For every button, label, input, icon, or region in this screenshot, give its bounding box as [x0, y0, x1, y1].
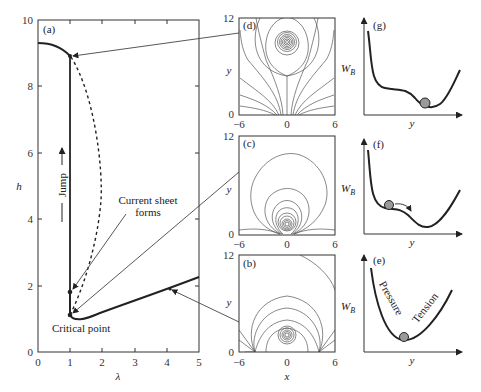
energy-curve — [368, 150, 460, 227]
x-tick-label: 4 — [164, 356, 170, 368]
panel-e: (e) WB y Pressure Tension — [341, 254, 462, 366]
panel-tag: (f) — [373, 138, 384, 151]
x-tick-label: 5 — [196, 356, 202, 368]
y-tick-label: 12 — [223, 249, 234, 261]
x-tick-label: −6 — [233, 118, 245, 130]
panel-tag: (c) — [243, 137, 256, 150]
lower-branch — [70, 277, 199, 319]
x-axis-label: x — [284, 370, 290, 382]
y-axis-label: h — [16, 180, 22, 192]
y-tick-label: 4 — [28, 213, 34, 225]
panel-tag: (d) — [243, 19, 256, 32]
current-sheet-arrow — [73, 214, 126, 289]
x-tick-label: 0 — [284, 238, 290, 250]
ball-icon — [385, 201, 394, 210]
panel-f: (f) WB y — [341, 138, 462, 248]
x-tick-label: 3 — [132, 356, 138, 368]
y-axis-label: WB — [341, 182, 355, 197]
x-tick-label: 0 — [35, 356, 41, 368]
current-sheet-label: Current sheet — [119, 194, 178, 206]
x-tick-label: 0 — [284, 118, 290, 130]
critical-point-marker — [68, 313, 73, 318]
ball-icon — [420, 98, 430, 108]
panel-tag: (a) — [43, 23, 56, 36]
y-tick-label: 2 — [28, 280, 34, 292]
y-axis-label: y — [226, 296, 232, 308]
y-tick-label: 12 — [223, 12, 234, 24]
tension-label: Tension — [409, 290, 440, 325]
panel-a: 0 1 2 3 4 5 0 2 4 6 8 10 λ h (a) Jump Cu… — [16, 14, 202, 382]
jump-label: Jump — [56, 173, 68, 197]
unstable-branch — [70, 57, 101, 315]
arrow-d-to-a — [73, 33, 239, 56]
panel-tag: (b) — [243, 257, 256, 270]
energy-curve — [371, 268, 452, 340]
y-tick-label: 6 — [28, 147, 34, 159]
x-tick-label: 2 — [99, 356, 105, 368]
panel-d: (d) 12 0 y −6 0 6 — [223, 10, 338, 130]
panel-b-frame — [239, 255, 335, 352]
x-axis-label: y — [409, 354, 415, 366]
current-sheet-label-2: forms — [135, 206, 161, 218]
y-tick-label: 10 — [22, 14, 34, 26]
x-axis-label: y — [409, 236, 415, 248]
current-sheet-point — [68, 290, 73, 295]
x-tick-label: 1 — [67, 356, 73, 368]
y-tick-label: 0 — [28, 346, 34, 358]
y-tick-label: 12 — [223, 130, 234, 142]
panel-b: (b) 12 0 y −6 0 6 x — [223, 249, 338, 382]
lower-point — [168, 287, 171, 290]
upper-point — [68, 54, 72, 58]
y-axis-label: y — [226, 64, 232, 76]
panel-c-frame — [239, 136, 335, 235]
ball-icon — [400, 333, 409, 342]
panel-g: (g) WB y — [341, 18, 462, 129]
contours-b — [239, 255, 335, 352]
x-axis-label: λ — [115, 370, 121, 382]
y-tick-label: 8 — [28, 80, 34, 92]
x-tick-label: 0 — [284, 356, 290, 368]
panel-c: (c) 12 0 y −6 0 6 — [223, 130, 338, 250]
x-tick-label: −6 — [233, 356, 245, 368]
critical-point-label: Critical point — [52, 322, 110, 334]
x-tick-label: 6 — [332, 118, 338, 130]
upper-branch — [38, 43, 70, 56]
panel-tag: (e) — [373, 254, 386, 267]
x-tick-label: 6 — [332, 356, 338, 368]
figure: 0 1 2 3 4 5 0 2 4 6 8 10 λ h (a) Jump Cu… — [0, 0, 481, 392]
contours-c — [239, 154, 335, 234]
y-axis-label: WB — [341, 300, 355, 315]
x-axis-label: y — [409, 117, 415, 129]
x-tick-label: −6 — [233, 238, 245, 250]
energy-curve — [368, 31, 460, 107]
x-tick-label: 6 — [332, 238, 338, 250]
panel-tag: (g) — [373, 19, 386, 32]
y-axis-label: WB — [341, 62, 355, 77]
y-axis-label: y — [226, 183, 232, 195]
